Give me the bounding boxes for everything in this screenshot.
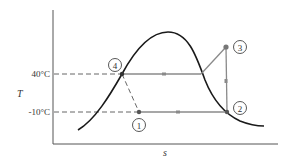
state-point-3 [223, 44, 228, 49]
state-label-4: 4 [109, 59, 122, 72]
process-3-sat [201, 47, 226, 74]
reference-lines [54, 74, 139, 112]
arrow-marker-1-2 [176, 111, 180, 114]
arrow-marker-2-3 [225, 79, 228, 83]
state-points [120, 44, 229, 114]
state-label-2: 2 [234, 102, 247, 115]
throttling-process-4-1 [122, 74, 139, 112]
ts-diagram: T s 40°C -10°C 1 2 [0, 0, 293, 162]
state-point-2 [225, 110, 229, 114]
direction-markers [162, 73, 228, 114]
svg-text:1: 1 [137, 121, 142, 131]
state-label-3: 3 [234, 41, 247, 54]
cycle [122, 47, 227, 112]
state-label-1: 1 [133, 119, 146, 132]
temp-label-40c: 40°C [31, 69, 50, 79]
state-point-1 [137, 110, 141, 114]
x-axis-label: s [163, 147, 167, 158]
temp-label-minus10c: -10°C [28, 107, 50, 117]
y-axis-label: T [17, 88, 24, 99]
svg-text:3: 3 [238, 43, 243, 53]
svg-text:2: 2 [238, 104, 243, 114]
state-point-4 [120, 72, 124, 76]
svg-text:4: 4 [113, 61, 118, 71]
arrow-marker-3-4 [162, 73, 166, 76]
